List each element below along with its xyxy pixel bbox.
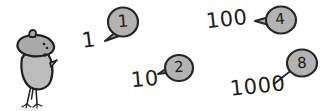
- number-label-100: 100: [205, 7, 249, 32]
- bubble-4-digit: 4: [269, 11, 290, 28]
- number-label-10: 10: [130, 68, 159, 91]
- number-label-1000: 1000: [229, 73, 286, 100]
- bubble-1-digit: 1: [112, 12, 133, 30]
- sketch-canvas: 1 10 100 1000 1 2 4 8: [0, 0, 329, 111]
- number-label-1: 1: [81, 29, 97, 52]
- bubble-8-digit: 8: [292, 55, 313, 71]
- bubble-2-digit: 2: [169, 59, 190, 75]
